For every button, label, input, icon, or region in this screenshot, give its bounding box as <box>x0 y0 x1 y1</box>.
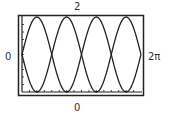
curve-2 <box>22 17 141 92</box>
curves <box>22 17 141 92</box>
graph-window <box>0 0 172 120</box>
